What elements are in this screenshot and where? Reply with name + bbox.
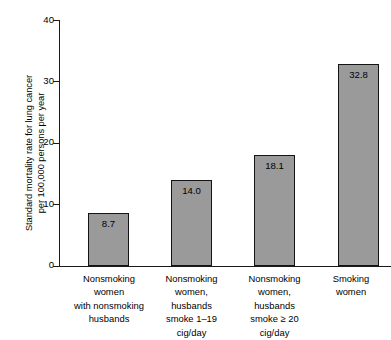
bar-chart: Standard mortality rate for lung cancer … bbox=[0, 0, 391, 340]
x-category-label-4-line-1: Smoking bbox=[311, 272, 391, 285]
y-tick-10: 10 bbox=[28, 199, 54, 209]
y-tick-40: 40 bbox=[28, 15, 54, 25]
y-tick-label-40: 40 bbox=[28, 15, 54, 25]
bar-value-label: 18.1 bbox=[255, 161, 294, 171]
bar-value-label: 14.0 bbox=[172, 186, 211, 196]
bar-nonsmoking-nonsmoking-husbands: 8.7 bbox=[88, 213, 129, 267]
y-tick-label-30: 30 bbox=[28, 76, 54, 86]
y-tick-30: 30 bbox=[28, 76, 54, 86]
x-category-label-3-line-5: cig/day bbox=[223, 326, 326, 339]
y-axis-title-line-1: Standard mortality rate for lung cancer bbox=[23, 23, 35, 283]
bar-smoking-women: 32.8 bbox=[338, 64, 379, 266]
bar-value-label: 8.7 bbox=[89, 219, 128, 229]
y-tick-label-10: 10 bbox=[28, 199, 54, 209]
x-category-label-3-line-4: smoke ≥ 20 bbox=[223, 312, 326, 325]
y-axis-line bbox=[59, 20, 60, 267]
x-category-label-4-line-2: women bbox=[311, 285, 391, 298]
x-category-label-4: Smoking women bbox=[311, 272, 391, 299]
x-category-label-3-line-3: husbands bbox=[223, 299, 326, 312]
bar-husbands-smoke-1-19: 14.0 bbox=[171, 180, 212, 266]
y-tick-20: 20 bbox=[28, 137, 54, 147]
y-tick-0: 0 bbox=[28, 260, 54, 270]
y-axis-title: Standard mortality rate for lung cancer … bbox=[23, 23, 57, 283]
y-tick-label-20: 20 bbox=[28, 137, 54, 147]
bar-value-label: 32.8 bbox=[339, 70, 378, 80]
y-axis-title-line-2: per 100,000 persons per year bbox=[35, 23, 47, 283]
bar-husbands-smoke-20-plus: 18.1 bbox=[254, 155, 295, 266]
y-tick-label-0: 0 bbox=[28, 260, 54, 270]
x-axis-line bbox=[59, 266, 391, 267]
